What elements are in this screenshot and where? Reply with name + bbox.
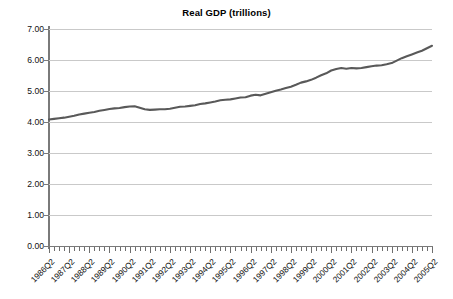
x-tick-mark-minor xyxy=(321,247,322,251)
x-tick-mark-major xyxy=(69,247,70,253)
x-tick-mark-minor xyxy=(336,247,337,251)
x-tick-mark-minor xyxy=(220,247,221,251)
x-tick-mark-minor xyxy=(145,247,146,251)
x-tick-mark-minor xyxy=(316,247,317,251)
x-tick-mark-major xyxy=(109,247,110,253)
x-tick-mark-minor xyxy=(246,247,247,251)
x-tick-mark-minor xyxy=(79,247,80,251)
x-tick-mark-minor xyxy=(64,247,65,251)
x-tick-mark-minor xyxy=(241,247,242,251)
x-tick-mark-minor xyxy=(397,247,398,251)
x-tick-mark-minor xyxy=(185,247,186,251)
x-tick-mark-minor xyxy=(346,247,347,251)
x-tick-mark-minor xyxy=(74,247,75,251)
x-tick-mark-minor xyxy=(266,247,267,251)
x-tick-mark-minor xyxy=(125,247,126,251)
x-tick-mark-minor xyxy=(296,247,297,251)
x-tick-mark-minor xyxy=(99,247,100,251)
x-tick-mark-minor xyxy=(84,247,85,251)
x-tick-mark-minor xyxy=(225,247,226,251)
x-tick-mark-major xyxy=(291,247,292,253)
x-tick-mark-minor xyxy=(301,247,302,251)
x-tick-mark-minor xyxy=(215,247,216,251)
x-tick-mark-major xyxy=(412,247,413,253)
x-tick-mark-minor xyxy=(281,247,282,251)
x-tick-mark-minor xyxy=(306,247,307,251)
x-tick-mark-major xyxy=(311,247,312,253)
x-tick-mark-major xyxy=(331,247,332,253)
x-tick-mark-major xyxy=(271,247,272,253)
x-tick-mark-minor xyxy=(120,247,121,251)
x-tick-mark-minor xyxy=(361,247,362,251)
x-tick-mark-major xyxy=(170,247,171,253)
x-tick-mark-minor xyxy=(276,247,277,251)
x-tick-mark-major xyxy=(230,247,231,253)
x-tick-mark-minor xyxy=(160,247,161,251)
x-tick-mark-major xyxy=(130,247,131,253)
x-tick-mark-minor xyxy=(200,247,201,251)
x-tick-mark-minor xyxy=(195,247,196,251)
x-tick-mark-major xyxy=(150,247,151,253)
x-tick-mark-minor xyxy=(366,247,367,251)
x-tick-mark-major xyxy=(251,247,252,253)
x-tick-mark-minor xyxy=(261,247,262,251)
x-tick-mark-minor xyxy=(422,247,423,251)
x-tick-mark-minor xyxy=(165,247,166,251)
x-tick-mark-minor xyxy=(427,247,428,251)
x-tick-mark-minor xyxy=(402,247,403,251)
x-tick-mark-minor xyxy=(155,247,156,251)
x-tick-mark-minor xyxy=(356,247,357,251)
x-tick-mark-major xyxy=(372,247,373,253)
x-tick-mark-minor xyxy=(407,247,408,251)
x-tick-mark-minor xyxy=(205,247,206,251)
x-tick-mark-major xyxy=(210,247,211,253)
x-tick-mark-minor xyxy=(180,247,181,251)
x-tick-mark-minor xyxy=(417,247,418,251)
x-tick-mark-minor xyxy=(235,247,236,251)
x-tick-mark-minor xyxy=(326,247,327,251)
x-tick-mark-minor xyxy=(256,247,257,251)
x-tick-mark-minor xyxy=(140,247,141,251)
x-tick-mark-major xyxy=(432,247,433,253)
x-tick-mark-minor xyxy=(382,247,383,251)
gdp-line-chart: Real GDP (trillions) 7.006.005.004.003.0… xyxy=(0,0,453,299)
x-tick-mark-minor xyxy=(377,247,378,251)
x-tick-mark-major xyxy=(392,247,393,253)
x-tick-mark-minor xyxy=(135,247,136,251)
x-tick-mark-major xyxy=(190,247,191,253)
x-tick-mark-minor xyxy=(59,247,60,251)
x-tick-mark-minor xyxy=(341,247,342,251)
x-axis-labels: 1986Q21987Q21988Q21989Q21990Q21991Q21992… xyxy=(0,0,453,299)
x-tick-mark-minor xyxy=(175,247,176,251)
x-tick-mark-minor xyxy=(115,247,116,251)
x-tick-mark-major xyxy=(89,247,90,253)
x-tick-mark-minor xyxy=(286,247,287,251)
x-tick-mark-minor xyxy=(104,247,105,251)
x-tick-mark-minor xyxy=(94,247,95,251)
x-tick-mark-major xyxy=(351,247,352,253)
x-tick-mark-minor xyxy=(387,247,388,251)
x-tick-mark-major xyxy=(49,247,50,253)
x-tick-mark-minor xyxy=(54,247,55,251)
